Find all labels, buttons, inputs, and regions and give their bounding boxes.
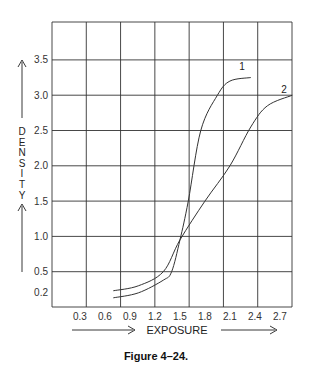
x-tick-label: 2.4	[248, 311, 262, 322]
curve-1-label: 1	[239, 61, 245, 72]
y-axis-title: DENSITY	[18, 60, 26, 272]
y-tick-label: 0.5	[34, 266, 48, 277]
curve-2-label: 2	[281, 84, 287, 95]
x-tick-label: 0.6	[98, 311, 112, 322]
y-axis-letter: I	[21, 168, 24, 179]
grid	[52, 22, 292, 307]
curve-1	[113, 78, 250, 298]
x-tick-label: 1.2	[148, 311, 162, 322]
x-tick-label: 0.3	[73, 311, 87, 322]
y-axis-letter: Y	[19, 190, 26, 201]
y-tick-label: 3.5	[34, 54, 48, 65]
y-tick-label: 0.2	[34, 287, 48, 298]
x-tick-label: 1.8	[198, 311, 212, 322]
x-tick-labels: 0.30.60.91.21.51.82.12.42.7	[73, 311, 287, 322]
y-tick-label: 1.5	[34, 196, 48, 207]
x-tick-label: 2.1	[223, 311, 237, 322]
y-tick-labels: 0.20.51.01.52.02.53.03.5	[34, 54, 48, 298]
y-tick-label: 1.0	[34, 231, 48, 242]
y-axis-letter: N	[18, 147, 25, 158]
x-tick-label: 1.5	[173, 311, 187, 322]
y-tick-label: 2.0	[34, 160, 48, 171]
y-tick-label: 2.5	[34, 125, 48, 136]
y-tick-label: 3.0	[34, 90, 48, 101]
y-axis-letter: D	[18, 126, 25, 137]
x-axis-title: EXPOSURE	[72, 324, 277, 336]
chart-svg: 0.20.51.01.52.02.53.03.5 0.30.60.91.21.5…	[0, 0, 312, 371]
y-axis-letter: E	[19, 137, 26, 148]
y-axis-letter: S	[19, 158, 26, 169]
figure-caption: Figure 4–24.	[0, 350, 312, 362]
x-axis-label: EXPOSURE	[146, 324, 207, 336]
x-tick-label: 2.7	[273, 311, 287, 322]
curves	[113, 78, 292, 298]
x-tick-label: 0.9	[123, 311, 137, 322]
y-axis-letter: T	[19, 179, 25, 190]
